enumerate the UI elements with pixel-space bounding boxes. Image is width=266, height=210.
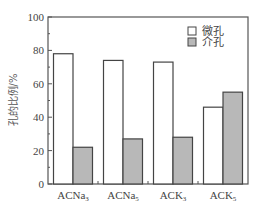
legend-swatch-mesopore [188,38,196,46]
x-tick-label: ACK5 [210,189,237,203]
y-tick-label: 40 [33,111,45,123]
x-tick-label: ACNa5 [107,189,139,203]
y-tick-label: 80 [33,44,45,56]
bar-mesopore [73,147,93,184]
bar-mesopore [223,92,243,184]
bar-micropore [204,107,224,184]
legend: 微孔介孔 [188,24,224,49]
y-tick-label: 20 [33,145,45,157]
bar-micropore [154,62,174,184]
y-tick-label: 100 [28,11,45,23]
bar-chart: 020406080100 ACNa3ACNa5ACK3ACK5 孔的比例/% 微… [0,0,266,210]
bar-mesopore [173,137,193,184]
legend-swatch-micropore [188,27,196,35]
legend-label-mesopore: 介孔 [202,36,224,49]
x-tick-label: ACK3 [160,189,187,203]
x-tick-label: ACNa3 [57,189,89,203]
bar-micropore [104,60,124,184]
y-tick-label: 0 [39,178,45,190]
bar-micropore [54,54,74,184]
bar-mesopore [123,139,143,184]
y-tick-label: 60 [33,78,45,90]
y-axis-label: 孔的比例/% [7,74,19,127]
